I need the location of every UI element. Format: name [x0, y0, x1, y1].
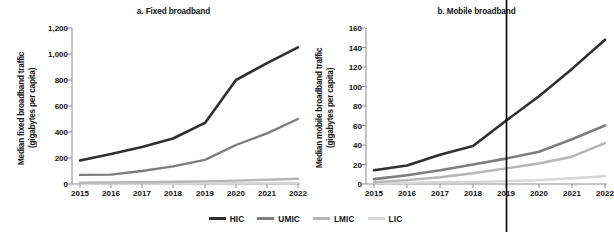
legend-label-lmic: LMIC: [334, 214, 355, 224]
panel-a-xtick-2017: 2017: [133, 189, 151, 198]
panel-b-xtick-2016: 2016: [398, 189, 416, 198]
legend-label-umic: UMIC: [278, 214, 300, 224]
legend-item-lmic: LMIC: [313, 214, 355, 224]
legend-swatch-hic-icon: [209, 217, 226, 220]
legend-swatch-lmic-icon: [313, 217, 330, 220]
panel-b-xtick-2020: 2020: [530, 189, 548, 198]
panel-b-xtick-2017: 2017: [431, 189, 449, 198]
panel-a-xtick-2019: 2019: [196, 189, 214, 198]
chart-panel-mobile-broadband: b. Mobile broadband Median mobile broadb…: [302, 0, 611, 205]
panel-b-plot: [302, 0, 611, 205]
panel-a-xtick-2020: 2020: [227, 189, 245, 198]
panel-b-series-hic: [374, 40, 605, 171]
panel-b-xtick-2021: 2021: [563, 189, 581, 198]
panel-a-series-umic: [80, 119, 298, 175]
panel-a-xtick-2016: 2016: [102, 189, 120, 198]
chart-legend: HIC UMIC LMIC LIC: [0, 205, 611, 232]
chart-panel-fixed-broadband: a. Fixed broadband Median fixed broadban…: [0, 0, 305, 205]
panel-b-xtick-2019: 2019: [497, 189, 515, 198]
panel-a-xtick-2018: 2018: [164, 189, 182, 198]
legend-item-lic: LIC: [368, 214, 403, 224]
legend-label-lic: LIC: [389, 214, 403, 224]
legend-item-hic: HIC: [209, 214, 245, 224]
panel-b-xtick-2018: 2018: [464, 189, 482, 198]
panel-a-xtick-2015: 2015: [71, 189, 89, 198]
legend-swatch-lic-icon: [368, 217, 385, 220]
legend-swatch-umic-icon: [257, 217, 274, 220]
panel-b-xtick-2015: 2015: [365, 189, 383, 198]
panel-a-plot: [0, 0, 305, 205]
panel-a-xtick-2021: 2021: [258, 189, 276, 198]
panel-b-xtick-2022: 2022: [596, 189, 614, 198]
legend-item-umic: UMIC: [257, 214, 300, 224]
legend-label-hic: HIC: [230, 214, 245, 224]
panel-a-series-hic: [80, 47, 298, 160]
